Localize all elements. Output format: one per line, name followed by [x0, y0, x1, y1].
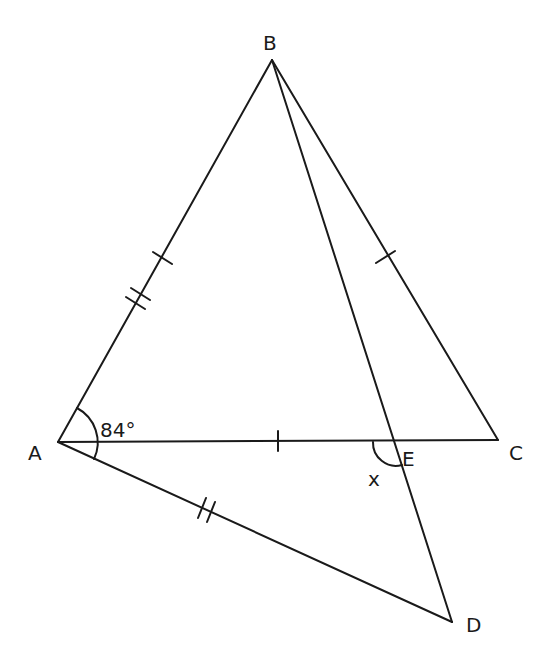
tick-ab-double-1: [131, 288, 150, 300]
point-label-d: D: [466, 613, 481, 637]
tick-ab-double-2: [126, 297, 145, 309]
tick-ad-double-2: [207, 502, 215, 522]
segment-bc: [272, 60, 498, 440]
segment-ab: [58, 60, 272, 442]
point-label-b: B: [263, 31, 277, 55]
point-label-a: A: [28, 441, 42, 465]
segment-bd: [272, 60, 452, 622]
point-label-c: C: [509, 441, 523, 465]
angle-label-x: x: [368, 467, 380, 491]
angle-label-a: 84°: [100, 418, 135, 442]
point-label-e: E: [402, 447, 415, 471]
segment-ad: [58, 442, 452, 622]
geometry-diagram: B A C E D 84° x: [0, 0, 557, 666]
